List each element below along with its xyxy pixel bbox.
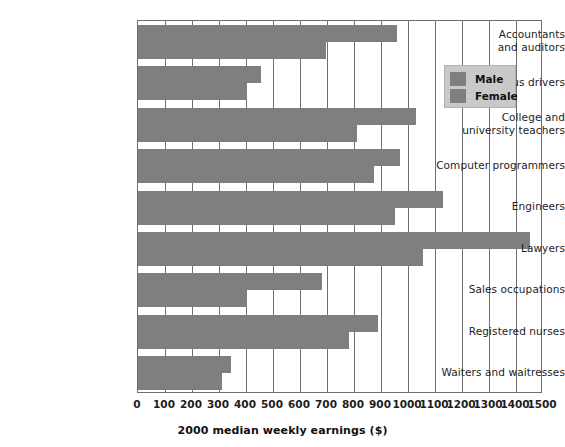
- legend-swatch-male: [450, 72, 466, 86]
- category-label-line: Accountants: [434, 28, 565, 41]
- category-label-line: Engineers: [434, 200, 565, 213]
- bar-female-0: [138, 42, 326, 59]
- legend-label-male: Male: [475, 73, 503, 85]
- legend-item-female: Female: [450, 88, 518, 103]
- bar-female-5: [138, 249, 423, 266]
- category-label-line: Lawyers: [434, 242, 565, 255]
- bar-female-7: [138, 332, 349, 349]
- category-label: Computer programmers: [434, 159, 565, 172]
- category-label: Lawyers: [434, 242, 565, 255]
- bar-male-2: [138, 108, 416, 125]
- bar-chart: Accountantsand auditorsBus driversColleg…: [0, 0, 565, 447]
- bar-male-7: [138, 315, 378, 332]
- category-label: Waiters and waitresses: [434, 366, 565, 379]
- category-label: Registered nurses: [434, 325, 565, 338]
- x-tick-label: 1500: [522, 398, 562, 410]
- legend: Male Female: [444, 65, 516, 108]
- bar-male-6: [138, 273, 322, 290]
- legend-swatch-female: [450, 89, 466, 103]
- category-label: College anduniversity teachers: [434, 111, 565, 136]
- category-label: Engineers: [434, 200, 565, 213]
- category-label-line: College and: [434, 111, 565, 124]
- bar-female-1: [138, 83, 247, 100]
- bar-male-8: [138, 356, 231, 373]
- x-axis-title: 2000 median weekly earnings ($): [0, 424, 565, 437]
- category-label-line: Sales occupations: [434, 283, 565, 296]
- legend-label-female: Female: [475, 90, 518, 102]
- category-label-line: university teachers: [434, 124, 565, 137]
- category-label-line: and auditors: [434, 41, 565, 54]
- bar-female-6: [138, 290, 247, 307]
- bar-male-1: [138, 66, 261, 83]
- category-label: Sales occupations: [434, 283, 565, 296]
- bar-female-2: [138, 125, 357, 142]
- category-label-line: Waiters and waitresses: [434, 366, 565, 379]
- category-label: Accountantsand auditors: [434, 28, 565, 53]
- bar-male-3: [138, 149, 400, 166]
- legend-item-male: Male: [450, 71, 503, 86]
- bar-male-0: [138, 25, 397, 42]
- category-label-line: Computer programmers: [434, 159, 565, 172]
- bar-female-8: [138, 373, 222, 390]
- bar-male-4: [138, 191, 443, 208]
- category-label-line: Registered nurses: [434, 325, 565, 338]
- bar-female-4: [138, 208, 395, 225]
- bar-female-3: [138, 166, 374, 183]
